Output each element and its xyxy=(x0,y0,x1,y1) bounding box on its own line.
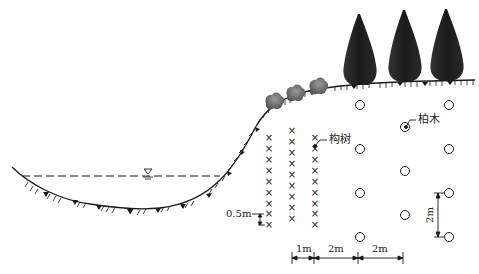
svg-text:×: × xyxy=(311,208,319,219)
svg-text:×: × xyxy=(265,176,273,187)
label-dim-2m-b: 2m xyxy=(372,244,388,254)
spacing-marker-0-5m xyxy=(252,214,265,225)
svg-text:×: × xyxy=(288,125,296,136)
svg-text:×: × xyxy=(288,202,296,213)
svg-text:×: × xyxy=(311,132,319,143)
svg-text:×: × xyxy=(288,169,296,180)
svg-text:×: × xyxy=(311,219,319,230)
goushu-markers: ××× ××× ××× ××× ××× ××× ××× ××× ××× xyxy=(265,125,319,230)
svg-text:×: × xyxy=(288,136,296,147)
svg-text:×: × xyxy=(265,143,273,154)
svg-text:×: × xyxy=(265,208,273,219)
shrub-icon xyxy=(309,77,328,94)
svg-text:×: × xyxy=(265,219,273,230)
svg-text:×: × xyxy=(288,158,296,169)
svg-text:×: × xyxy=(265,154,273,165)
cypress-trees xyxy=(343,9,463,85)
diagram-canvas: ××× ××× ××× ××× ××× ××× ××× ××× ××× xyxy=(0,0,479,274)
svg-text:×: × xyxy=(288,147,296,158)
label-goushu: 构树 xyxy=(329,134,351,145)
svg-text:×: × xyxy=(288,180,296,191)
cypress-tree-icon xyxy=(430,9,463,80)
label-baimu: 柏木 xyxy=(418,114,440,125)
svg-text:×: × xyxy=(311,176,319,187)
label-dim-2m-a: 2m xyxy=(328,244,344,254)
svg-text:×: × xyxy=(288,191,296,202)
label-dim-vertical-2m: 2m xyxy=(425,207,435,223)
shrub-icon xyxy=(265,92,284,109)
svg-text:×: × xyxy=(311,154,319,165)
svg-text:×: × xyxy=(311,187,319,198)
label-spacing-0-5m: 0.5m xyxy=(226,209,251,219)
svg-text:×: × xyxy=(265,132,273,143)
cypress-tree-icon xyxy=(388,10,421,81)
label-dim-1m: 1m xyxy=(296,244,312,254)
ground-profile xyxy=(12,80,475,215)
svg-text:×: × xyxy=(311,165,319,176)
svg-text:×: × xyxy=(265,165,273,176)
shrub-icon xyxy=(286,84,305,101)
vertical-dimension xyxy=(434,193,444,237)
cypress-tree-icon xyxy=(343,14,376,85)
svg-text:×: × xyxy=(288,213,296,224)
water-level xyxy=(22,169,220,179)
shrubs xyxy=(265,77,328,109)
svg-text:×: × xyxy=(265,187,273,198)
water-level-icon xyxy=(143,169,153,179)
